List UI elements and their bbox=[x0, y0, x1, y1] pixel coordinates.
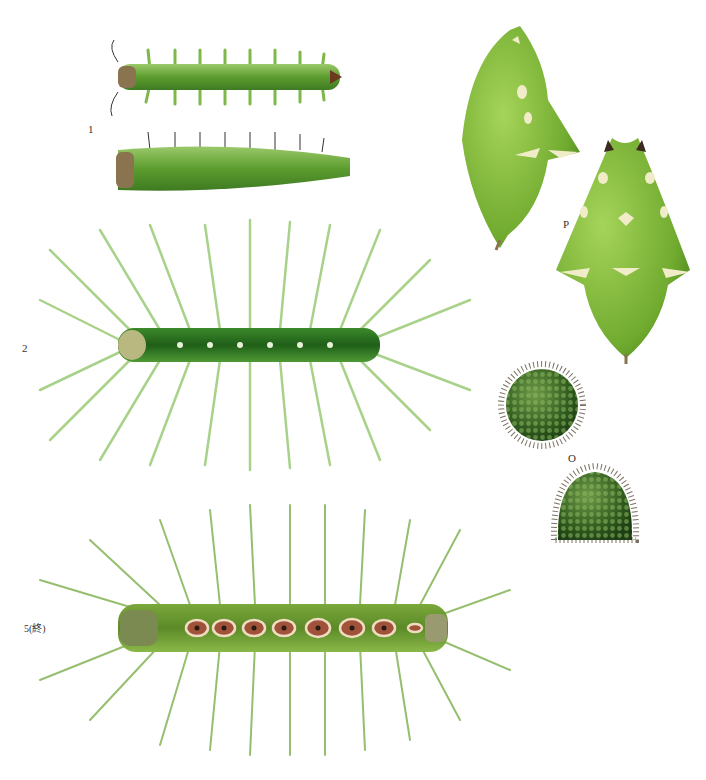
egg-top-view bbox=[501, 364, 583, 446]
illustration-plate: 1 2 bbox=[0, 0, 706, 780]
label-fig1: 1 bbox=[88, 123, 94, 135]
plate-artwork: 1 2 bbox=[0, 0, 706, 780]
label-fig5: 5(終) bbox=[24, 622, 46, 635]
pupa-lateral bbox=[462, 26, 580, 250]
fig1-larva-dorsal bbox=[111, 40, 342, 116]
label-fig2: 2 bbox=[22, 342, 28, 354]
fig1-larva-lateral bbox=[116, 132, 350, 191]
label-egg: O bbox=[568, 452, 576, 464]
pupa-dorsal bbox=[556, 138, 690, 364]
egg-side-view bbox=[554, 466, 636, 540]
label-pupa: P bbox=[563, 218, 569, 230]
fig2-larva bbox=[40, 220, 470, 470]
fig5-larva-final-instar bbox=[40, 505, 510, 755]
